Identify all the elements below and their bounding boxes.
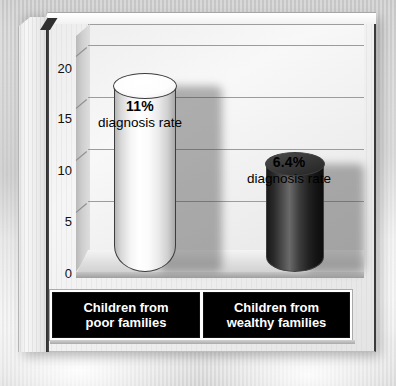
category-box-poor-line1: Children from (83, 300, 168, 315)
bar-poor-data-label: 11% diagnosis rate (82, 99, 198, 130)
category-box-wealthy: Children from wealthy families (203, 292, 350, 338)
y-axis: 20 15 10 5 0 (42, 24, 72, 280)
bar-wealthy-percent: 6.4% (231, 155, 347, 171)
y-axis-tick-0: 0 (46, 267, 72, 280)
plot-area (76, 24, 364, 272)
gridline-20 (88, 45, 364, 46)
category-box-poor: Children from poor families (52, 292, 200, 338)
y-axis-tick-20: 20 (46, 62, 72, 75)
y-axis-tick-15: 15 (46, 112, 72, 125)
y-axis-tick-5: 5 (46, 215, 72, 228)
bar-poor-cap (113, 73, 177, 99)
category-box-wealthy-line2: wealthy families (227, 315, 327, 330)
plot-left-wall (76, 24, 90, 272)
category-box-poor-line2: poor families (86, 315, 167, 330)
chart-screenshot: 20 15 10 5 0 11% d (0, 0, 396, 386)
plot-floor-front-edge (76, 272, 364, 278)
category-box-wealthy-line1: Children from (234, 300, 319, 315)
y-axis-tick-10: 10 (46, 164, 72, 177)
bar-wealthy-rate-text: diagnosis rate (231, 171, 347, 186)
category-legend: Children from poor families Children fro… (49, 289, 353, 341)
bar-poor-percent: 11% (82, 99, 198, 115)
bar-poor-rate-text: diagnosis rate (82, 115, 198, 130)
bar-wealthy-data-label: 6.4% diagnosis rate (231, 155, 347, 186)
